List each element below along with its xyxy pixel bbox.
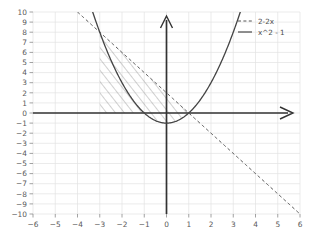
graph-plot-container: −6−5−4−3−2−10123456 109876543210−1−2−3−4… [0,0,312,239]
y-tick-label: 1 [22,99,27,108]
y-tick-label: 10 [18,8,28,17]
y-tick-label: −2 [16,129,27,138]
legend-label-2: x^2 - 1 [258,28,285,37]
y-tick-label: 0 [22,109,27,118]
x-tick-label: −5 [50,220,61,229]
y-tick-label: 8 [22,28,27,37]
y-tick-label: −10 [11,210,27,219]
x-tick-label: −1 [139,220,150,229]
coordinate-plane-chart: −6−5−4−3−2−10123456 109876543210−1−2−3−4… [0,0,312,239]
y-tick-label: 7 [22,38,27,47]
y-tick-label: −9 [16,200,27,209]
y-tick-label: −3 [16,139,27,148]
y-tick-label: −4 [16,149,27,158]
x-tick-label: −6 [28,220,39,229]
legend-label-1: 2-2x [258,17,275,26]
x-tick-label: 4 [253,220,258,229]
x-tick-label: 5 [275,220,280,229]
y-tick-label: −1 [16,119,27,128]
x-tick-label: −2 [117,220,128,229]
x-tick-label: 0 [164,220,169,229]
y-tick-label: 5 [22,58,27,67]
y-tick-label: 2 [22,89,27,98]
y-tick-label: 9 [22,18,27,27]
x-tick-label: −3 [94,220,105,229]
x-tick-label: −4 [72,220,83,229]
x-tick-label: 2 [209,220,214,229]
y-tick-label: 6 [22,48,27,57]
y-tick-label: −6 [16,169,27,178]
y-tick-label: 3 [22,78,27,87]
y-tick-label: 4 [22,68,27,77]
x-tick-label: 6 [298,220,303,229]
y-tick-label: −5 [16,159,27,168]
y-tick-label: −8 [16,190,27,199]
x-tick-label: 1 [186,220,191,229]
x-tick-label: 3 [231,220,236,229]
y-tick-label: −7 [16,179,27,188]
